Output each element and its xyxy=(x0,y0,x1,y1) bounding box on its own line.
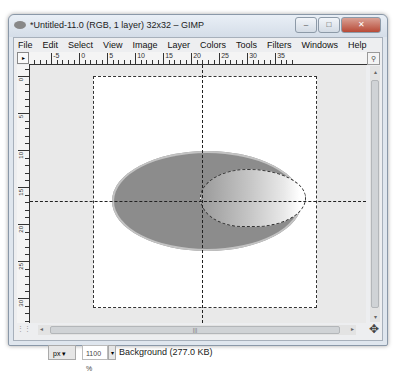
ruler-tick xyxy=(25,217,29,218)
ruler-tick xyxy=(253,60,254,64)
unit-selector[interactable]: px ▾ xyxy=(48,345,76,360)
zoom-to-window-button[interactable]: ⚲ xyxy=(367,52,380,65)
menu-file[interactable]: File xyxy=(18,38,33,52)
ruler-tick xyxy=(124,60,125,64)
maximize-button[interactable]: □ xyxy=(318,17,340,33)
ruler-tick xyxy=(208,60,209,64)
menu-colors[interactable]: Colors xyxy=(200,38,226,52)
quick-menu-button[interactable]: ▸ xyxy=(17,52,29,64)
menu-view[interactable]: View xyxy=(103,38,122,52)
scroll-down-arrow[interactable]: ▾ xyxy=(370,313,380,320)
ruler-label: 5 xyxy=(18,115,24,118)
ruler-tick xyxy=(186,60,187,64)
ruler-tick xyxy=(202,60,203,64)
ruler-tick xyxy=(286,60,287,64)
ruler-tick xyxy=(25,321,29,322)
ruler-tick xyxy=(85,60,86,64)
ruler-tick xyxy=(25,247,29,248)
vertical-scrollbar[interactable]: ▴ ▾ xyxy=(370,66,380,322)
ruler-label: 25 xyxy=(18,263,24,270)
ruler-tick xyxy=(264,60,265,64)
scroll-left-arrow[interactable]: ◂ xyxy=(40,325,43,332)
ruler-tick xyxy=(25,284,29,285)
ruler-tick xyxy=(25,128,29,129)
ruler-tick xyxy=(57,60,58,64)
ruler-tick xyxy=(96,60,97,64)
ruler-tick xyxy=(118,60,119,64)
ruler-tick xyxy=(25,210,29,211)
menu-tools[interactable]: Tools xyxy=(236,38,257,52)
zoom-field[interactable]: 1100 % xyxy=(82,345,108,360)
ruler-tick xyxy=(68,60,69,64)
ruler-tick xyxy=(51,53,52,64)
minimize-button[interactable]: – xyxy=(295,17,317,33)
horizontal-scroll-thumb[interactable]: ||| xyxy=(50,326,340,334)
scroll-up-arrow[interactable]: ▴ xyxy=(370,68,380,75)
menu-windows[interactable]: Windows xyxy=(301,38,338,52)
gimp-app-icon xyxy=(14,21,26,29)
ruler-tick xyxy=(25,165,29,166)
ruler-tick xyxy=(247,53,248,64)
ruler-tick xyxy=(191,53,192,64)
ruler-label: 10 xyxy=(18,152,24,159)
ruler-tick xyxy=(158,60,159,64)
ruler-label: 20 xyxy=(193,52,201,59)
ruler-tick xyxy=(107,53,108,64)
ruler-tick xyxy=(275,53,276,64)
horizontal-scrollbar[interactable]: ◂ ||| ▸ xyxy=(38,325,356,335)
horizontal-ruler[interactable]: -505101520253035 xyxy=(29,52,367,65)
ruler-tick xyxy=(25,136,29,137)
ruler-tick xyxy=(135,53,136,64)
ruler-tick xyxy=(292,60,293,64)
cropped-text-above xyxy=(0,0,395,12)
ruler-tick xyxy=(180,60,181,64)
menu-select[interactable]: Select xyxy=(68,38,93,52)
menu-filters[interactable]: Filters xyxy=(267,38,292,52)
ruler-tick xyxy=(25,202,29,203)
ruler-label: 10 xyxy=(137,52,145,59)
ruler-tick xyxy=(146,60,147,64)
ruler-tick xyxy=(242,60,243,64)
ruler-tick xyxy=(90,60,91,64)
menu-image[interactable]: Image xyxy=(132,38,157,52)
ruler-tick xyxy=(25,276,29,277)
navigate-icon[interactable]: ✥ xyxy=(368,323,380,335)
ruler-tick xyxy=(141,60,142,64)
quick-mask-toggle[interactable]: ⋮⋮ xyxy=(17,325,29,335)
ruler-tick xyxy=(25,143,29,144)
ruler-tick xyxy=(25,254,29,255)
vertical-scroll-thumb[interactable] xyxy=(371,80,379,308)
close-button[interactable]: ✕ xyxy=(341,17,381,33)
menu-edit[interactable]: Edit xyxy=(43,38,59,52)
ruler-tick xyxy=(174,60,175,64)
horizontal-guide[interactable] xyxy=(30,201,366,202)
ruler-label: 0 xyxy=(18,78,24,81)
scroll-right-arrow[interactable]: ▸ xyxy=(351,325,354,332)
ruler-tick xyxy=(25,306,29,307)
ruler-tick xyxy=(25,180,29,181)
title-bar: *Untitled-11.0 (RGB, 1 layer) 32x32 – GI… xyxy=(9,15,387,37)
ruler-tick xyxy=(25,232,29,233)
ruler-tick xyxy=(219,53,220,64)
ruler-tick xyxy=(113,60,114,64)
ruler-tick xyxy=(270,60,271,64)
ruler-tick xyxy=(25,313,29,314)
vertical-ruler[interactable]: 051015202530 xyxy=(17,65,30,323)
image-canvas[interactable] xyxy=(30,65,366,323)
ruler-tick xyxy=(79,53,80,64)
status-bar: px ▾ 1100 % ▾ Background (277.0 KB) xyxy=(8,344,386,364)
ruler-tick xyxy=(281,60,282,64)
ruler-tick xyxy=(62,60,63,64)
ruler-tick xyxy=(25,195,29,196)
vertical-guide[interactable] xyxy=(202,65,203,323)
menu-help[interactable]: Help xyxy=(348,38,367,52)
ruler-label: -5 xyxy=(53,52,59,59)
ruler-label: 20 xyxy=(18,226,24,233)
ruler-tick xyxy=(25,121,29,122)
ruler-tick xyxy=(25,106,29,107)
ruler-label: 5 xyxy=(109,52,113,59)
ruler-tick xyxy=(25,239,29,240)
menu-layer[interactable]: Layer xyxy=(167,38,190,52)
zoom-dropdown-button[interactable]: ▾ xyxy=(108,345,116,360)
ruler-tick xyxy=(225,60,226,64)
